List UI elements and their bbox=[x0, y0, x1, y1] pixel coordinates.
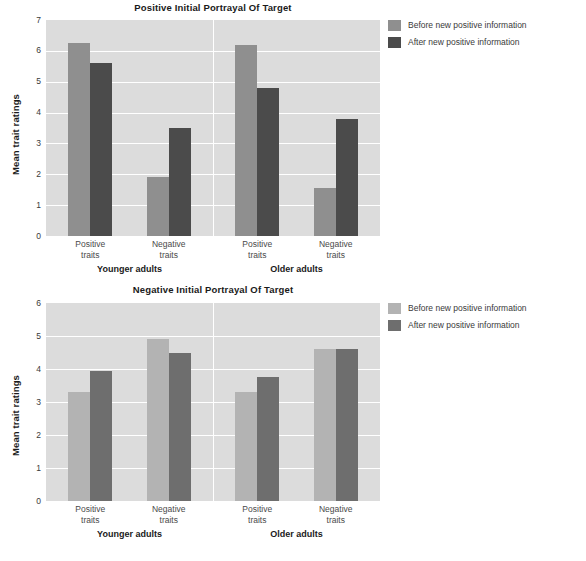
group-label: Younger adults bbox=[70, 529, 190, 539]
x-axis-tick-label: Positive traits bbox=[60, 239, 120, 260]
x-axis-tick-label: Positive traits bbox=[60, 504, 120, 525]
legend-swatch-icon bbox=[388, 320, 401, 331]
chart-title: Negative Initial Portrayal Of Target bbox=[46, 284, 380, 295]
legend-swatch-icon bbox=[388, 20, 401, 31]
bar-before bbox=[68, 392, 90, 501]
bar-before bbox=[314, 188, 336, 236]
y-axis-tick-label: 2 bbox=[20, 170, 41, 179]
legend-label: After new positive information bbox=[408, 319, 520, 331]
y-axis-tick-label: 5 bbox=[20, 77, 41, 86]
y-axis-tick-label: 4 bbox=[20, 365, 41, 374]
bar-before bbox=[314, 349, 336, 501]
x-axis-tick-label: Negative traits bbox=[306, 504, 366, 525]
group-label: Older adults bbox=[237, 529, 357, 539]
group-label: Younger adults bbox=[70, 264, 190, 274]
x-axis-tick-label: Positive traits bbox=[227, 239, 287, 260]
y-axis-tick-label: 0 bbox=[20, 232, 41, 241]
y-axis-tick-label: 6 bbox=[20, 46, 41, 55]
x-axis-tick-label: Positive traits bbox=[227, 504, 287, 525]
x-axis-tick-label: Negative traits bbox=[139, 239, 199, 260]
bar-before bbox=[147, 339, 169, 501]
y-axis-tick-label: 1 bbox=[20, 464, 41, 473]
group-label: Older adults bbox=[237, 264, 357, 274]
plot-area bbox=[46, 20, 380, 236]
bar-before bbox=[147, 177, 169, 236]
group-divider bbox=[213, 20, 214, 236]
bar-after bbox=[90, 63, 112, 236]
x-axis-tick-label: Negative traits bbox=[139, 504, 199, 525]
y-axis-tick-label: 6 bbox=[20, 299, 41, 308]
legend-label: Before new positive information bbox=[408, 302, 527, 314]
legend-label: After new positive information bbox=[408, 36, 520, 48]
bar-before bbox=[68, 43, 90, 236]
y-axis-tick-label: 0 bbox=[20, 497, 41, 506]
bar-after bbox=[257, 377, 279, 501]
bar-before bbox=[235, 45, 257, 236]
y-axis-label: Mean trait ratings bbox=[10, 94, 21, 175]
y-axis-label: Mean trait ratings bbox=[10, 375, 21, 456]
y-axis-tick-label: 4 bbox=[20, 108, 41, 117]
chart-title: Positive Initial Portrayal Of Target bbox=[46, 2, 380, 13]
legend-swatch-icon bbox=[388, 37, 401, 48]
bar-after bbox=[257, 88, 279, 236]
bar-after bbox=[90, 371, 112, 501]
chart-panel-positive-initial: Positive Initial Portrayal Of Target Mea… bbox=[0, 0, 586, 280]
bar-after bbox=[169, 353, 191, 502]
y-axis-tick-label: 7 bbox=[20, 16, 41, 25]
bar-after bbox=[169, 128, 191, 236]
y-axis-tick-label: 3 bbox=[20, 398, 41, 407]
y-axis-tick-label: 1 bbox=[20, 201, 41, 210]
y-axis-tick-label: 3 bbox=[20, 139, 41, 148]
y-axis-tick-label: 2 bbox=[20, 431, 41, 440]
bar-after bbox=[336, 119, 358, 236]
plot-area bbox=[46, 303, 380, 501]
x-axis-tick-label: Negative traits bbox=[306, 239, 366, 260]
y-axis-tick-label: 5 bbox=[20, 332, 41, 341]
group-divider bbox=[213, 303, 214, 501]
bar-after bbox=[336, 349, 358, 501]
bar-before bbox=[235, 392, 257, 501]
legend-swatch-icon bbox=[388, 303, 401, 314]
legend-label: Before new positive information bbox=[408, 19, 527, 31]
chart-panel-negative-initial: Negative Initial Portrayal Of Target Mea… bbox=[0, 281, 586, 561]
